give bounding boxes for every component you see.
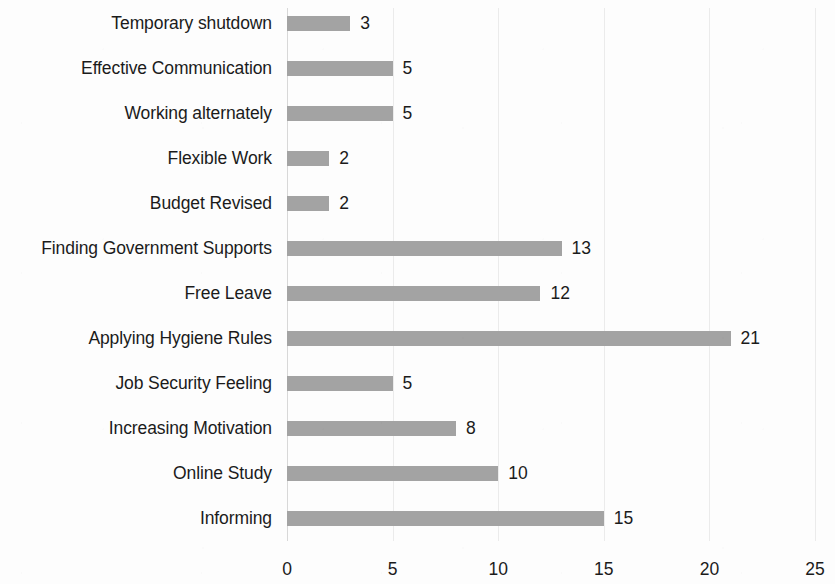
bar	[287, 16, 350, 31]
bar-value-label: 10	[508, 465, 527, 482]
x-axis-tick-label: 5	[388, 559, 398, 580]
bar-row: Applying Hygiene Rules21	[0, 331, 835, 376]
bar-fill	[287, 196, 329, 211]
x-axis-tick-label: 0	[282, 559, 292, 580]
bar-value-label: 15	[614, 510, 633, 527]
category-label: Informing	[0, 511, 272, 526]
x-axis-tick-label: 20	[700, 559, 719, 580]
bar-row: Effective Communication5	[0, 61, 835, 106]
bar	[287, 241, 562, 256]
category-label: Free Leave	[0, 286, 272, 301]
bar-row: Temporary shutdown3	[0, 16, 835, 61]
category-label: Finding Government Supports	[0, 241, 272, 256]
bar-row: Free Leave12	[0, 286, 835, 331]
x-axis-tick-label: 10	[488, 559, 507, 580]
bar-fill	[287, 421, 456, 436]
bar	[287, 196, 329, 211]
bar-fill	[287, 331, 731, 346]
bar-value-label: 2	[339, 195, 349, 212]
bar-fill	[287, 511, 604, 526]
category-label: Flexible Work	[0, 151, 272, 166]
bar-row: Finding Government Supports13	[0, 241, 835, 286]
x-axis-tick-label: 15	[594, 559, 613, 580]
category-label: Budget Revised	[0, 196, 272, 211]
bar	[287, 466, 498, 481]
bar-fill	[287, 376, 393, 391]
bar-value-label: 13	[572, 240, 591, 257]
category-label: Working alternately	[0, 106, 272, 121]
x-axis: 0510152025	[0, 541, 835, 584]
bar	[287, 61, 393, 76]
bar-value-label: 5	[403, 60, 413, 77]
bar	[287, 331, 731, 346]
bar-value-label: 21	[741, 330, 760, 347]
bar	[287, 421, 456, 436]
bar-value-label: 5	[403, 105, 413, 122]
bar-row: Online Study10	[0, 466, 835, 511]
bar-fill	[287, 151, 329, 166]
bar-value-label: 3	[360, 15, 370, 32]
bar-row: Working alternately5	[0, 106, 835, 151]
bar-row: Job Security Feeling5	[0, 376, 835, 421]
category-label: Temporary shutdown	[0, 16, 272, 31]
category-label: Increasing Motivation	[0, 421, 272, 436]
category-label: Online Study	[0, 466, 272, 481]
bar	[287, 106, 393, 121]
bar-row: Flexible Work2	[0, 151, 835, 196]
bar	[287, 511, 604, 526]
bar-fill	[287, 241, 562, 256]
horizontal-bar-chart: Temporary shutdown3Effective Communicati…	[0, 0, 835, 584]
bar	[287, 151, 329, 166]
x-axis-tick-label: 25	[805, 559, 824, 580]
bar-fill	[287, 16, 350, 31]
category-label: Effective Communication	[0, 61, 272, 76]
bar-fill	[287, 466, 498, 481]
bar-value-label: 5	[403, 375, 413, 392]
category-label: Applying Hygiene Rules	[0, 331, 272, 346]
bar-fill	[287, 106, 393, 121]
bar-fill	[287, 61, 393, 76]
category-label: Job Security Feeling	[0, 376, 272, 391]
bar	[287, 286, 540, 301]
bar-value-label: 2	[339, 150, 349, 167]
bar-fill	[287, 286, 540, 301]
bar-row: Budget Revised2	[0, 196, 835, 241]
bar-row: Increasing Motivation8	[0, 421, 835, 466]
bar-value-label: 8	[466, 420, 476, 437]
bar	[287, 376, 393, 391]
bar-value-label: 12	[550, 285, 569, 302]
